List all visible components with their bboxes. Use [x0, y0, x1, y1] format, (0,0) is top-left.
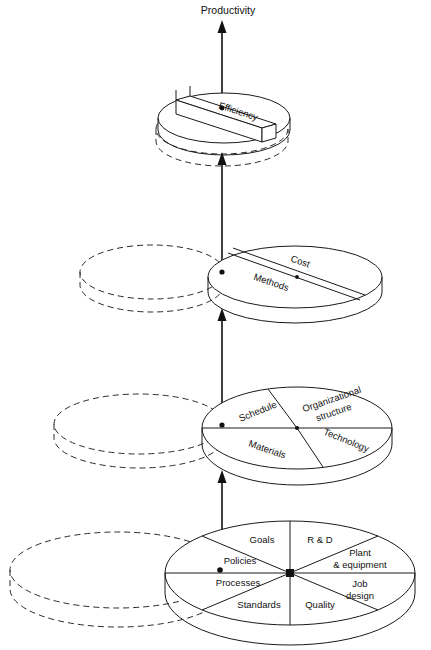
methods-cost-disk: Cost Methods [80, 245, 382, 323]
level2-disk-center-dot [295, 275, 299, 279]
level4-center-dot [217, 567, 223, 573]
foundation-disk: Goals R & D Plant & equipment Job design… [10, 521, 415, 645]
resources-disk: Schedule Organizational structure Techno… [54, 384, 392, 485]
level3-disk-center-dot [295, 426, 299, 430]
sector-r-and-d-label: R & D [307, 534, 332, 545]
level2-center-dot [219, 269, 224, 274]
level3-center-dot [219, 422, 224, 427]
arrow-level2-to-level1 [218, 152, 227, 272]
level2-dashed-ellipse [80, 245, 224, 312]
productivity-hierarchy-diagram: Productivity [0, 0, 431, 650]
sector-policies-label: Policies [224, 555, 257, 566]
sector-job-design-label-line2: design [346, 590, 374, 601]
diagram-title: Productivity [201, 4, 256, 16]
efficiency-center-dot [220, 106, 225, 111]
sector-goals-label: Goals [250, 534, 275, 545]
sector-job-design-label-line1: Job [352, 578, 367, 589]
sector-plant-equipment-label-line1: Plant [349, 547, 371, 558]
sector-quality-label: Quality [305, 599, 335, 610]
diagram-root: Productivity [0, 0, 431, 650]
level4-disk-center-square [286, 569, 294, 577]
efficiency-disk: Efficiency [156, 86, 290, 166]
sector-plant-equipment-label-line2: & equipment [333, 559, 387, 570]
level3-dashed-ellipse [54, 394, 224, 468]
sector-standards-label: Standards [237, 599, 281, 610]
sector-processes-label: Processes [216, 577, 261, 588]
